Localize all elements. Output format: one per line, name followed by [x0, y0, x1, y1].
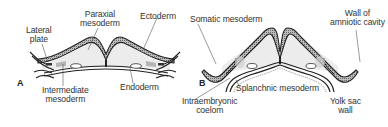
label-intermediate-mesoderm: Intermediate mesoderm	[42, 86, 89, 105]
panel-label-a: A	[17, 78, 24, 88]
label-somatic-mesoderm: Somatic mesoderm	[190, 15, 262, 24]
label-intraembryonic-coelom: Intraembryonic coelom	[182, 97, 237, 116]
label-wall-amniotic-cavity: Wall of amniotic cavity	[330, 9, 385, 28]
aorta-right-b	[306, 64, 316, 69]
aorta-left-a	[71, 64, 82, 69]
label-ectoderm: Ectoderm	[140, 12, 176, 21]
label-splanchnic-mesoderm: Splanchnic mesoderm	[236, 84, 319, 93]
ectoderm-band-b	[202, 28, 358, 82]
aorta-left-b	[247, 64, 257, 69]
label-paraxial-mesoderm: Paraxial mesoderm	[80, 10, 120, 29]
label-endoderm: Endoderm	[120, 83, 159, 92]
aorta-right-a	[131, 64, 142, 69]
label-yolk-sac-wall: Yolk sac wall	[330, 97, 361, 116]
panel-label-b: B	[199, 78, 206, 88]
label-lateral-plate: Lateral plate	[26, 26, 52, 45]
